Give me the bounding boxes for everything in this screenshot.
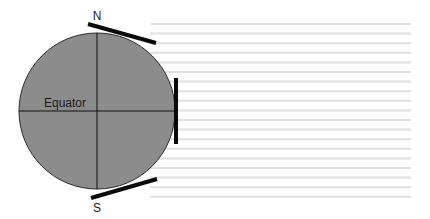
- south-label: S: [93, 201, 101, 215]
- earth-sunlight-diagram: N S Equator: [0, 0, 430, 219]
- equator-label: Equator: [44, 96, 86, 110]
- north-label: N: [93, 9, 102, 23]
- sun-rays: [150, 24, 411, 197]
